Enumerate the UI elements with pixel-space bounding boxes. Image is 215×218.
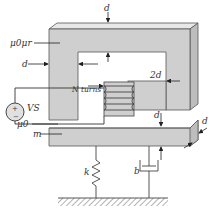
source-label: VS [27, 103, 40, 113]
core-material-label: μ0μr [10, 38, 32, 48]
core-thickness-left-label: d [22, 59, 28, 69]
core-thickness-top-label: d [104, 3, 110, 13]
spring-label: k [84, 167, 89, 177]
coil [104, 82, 134, 116]
actuator-diagram: + − μ0μr d d N turns 2d VS μ0 m d d k b [0, 0, 215, 218]
gap-right-label: d [154, 110, 160, 120]
mass-label: m [33, 129, 42, 139]
source-plus: + [12, 105, 18, 113]
damper [140, 146, 158, 198]
pole-width-label: 2d [149, 70, 162, 80]
ground [58, 198, 168, 206]
air-gap-label: μ0 [17, 119, 29, 129]
damper-label: b [134, 166, 140, 176]
spring [92, 146, 100, 198]
coil-turns-label: N turns [71, 85, 101, 94]
depth-label: d [202, 116, 208, 126]
